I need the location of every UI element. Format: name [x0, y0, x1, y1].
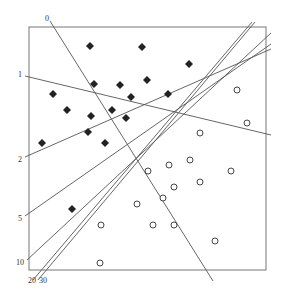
- circle-point: [171, 222, 177, 228]
- circle-point: [134, 201, 140, 207]
- diamond-point: [185, 60, 193, 68]
- diamond-point: [68, 205, 76, 213]
- circle-point: [197, 179, 203, 185]
- iteration-label: 20: [28, 276, 36, 285]
- diamond-point: [84, 128, 92, 136]
- diamond-point: [127, 93, 135, 101]
- circle-point: [234, 87, 240, 93]
- iteration-label: 0: [45, 14, 49, 23]
- decision-line-iter-0: [50, 21, 213, 281]
- diamond-point: [101, 139, 109, 147]
- iteration-label: 2: [18, 155, 22, 164]
- diamond-point: [122, 114, 130, 122]
- diamond-point: [138, 43, 146, 51]
- circle-point: [171, 184, 177, 190]
- circle-point: [166, 162, 172, 168]
- diamond-point: [143, 76, 151, 84]
- diamond-point: [108, 106, 116, 114]
- iteration-label: 10: [16, 258, 24, 267]
- circle-point: [197, 130, 203, 136]
- decision-line-iter-2: [25, 49, 271, 157]
- diamond-point: [86, 42, 94, 50]
- decision-line-iter-1: [25, 76, 271, 135]
- decision-line-iter-30: [38, 22, 255, 280]
- decision-line-iter-10: [27, 33, 271, 260]
- diamond-point: [38, 139, 46, 147]
- diamond-point: [164, 90, 172, 98]
- circle-point: [97, 260, 103, 266]
- iteration-label: 30: [39, 276, 47, 285]
- circle-point: [187, 157, 193, 163]
- decision-line-iter-20: [33, 22, 252, 280]
- iteration-label: 1: [18, 70, 22, 79]
- diamond-point: [63, 106, 71, 114]
- circle-point: [150, 222, 156, 228]
- circle-point: [98, 222, 104, 228]
- decision-lines: [25, 21, 271, 281]
- perceptron-diagram: 0125102030: [0, 0, 287, 297]
- circle-point: [160, 195, 166, 201]
- decision-line-iter-5: [25, 44, 271, 216]
- circle-point: [212, 238, 218, 244]
- circle-point: [145, 168, 151, 174]
- circle-point: [228, 168, 234, 174]
- diamond-point: [49, 90, 57, 98]
- diamond-point: [87, 112, 95, 120]
- diamond-point: [116, 81, 124, 89]
- circle-point: [244, 120, 250, 126]
- iteration-label: 5: [18, 214, 22, 223]
